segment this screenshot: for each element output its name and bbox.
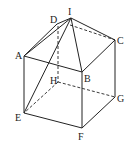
cube-pyramid-diagram: I D A C B H G E F: [0, 0, 133, 147]
hidden-edge-d-c: [70, 25, 115, 40]
edge-i-c: [71, 18, 115, 40]
label-f: F: [78, 131, 84, 142]
edge-e-f: [24, 113, 82, 128]
label-e: E: [15, 112, 21, 123]
label-i: I: [68, 6, 71, 17]
label-h: H: [50, 75, 57, 86]
edge-f-g: [82, 97, 115, 128]
edge-a-i: [24, 18, 71, 56]
edge-a-b: [24, 56, 82, 72]
label-c: C: [117, 35, 124, 46]
label-g: G: [117, 93, 124, 104]
edge-a-d: [24, 24, 57, 56]
label-b: B: [84, 73, 91, 84]
hidden-edge-h-g: [58, 82, 115, 97]
edge-i-e: [24, 18, 71, 113]
edge-b-c: [82, 40, 115, 72]
hidden-edge-h-e: [24, 82, 58, 113]
label-d: D: [50, 14, 57, 25]
label-a: A: [15, 50, 23, 61]
